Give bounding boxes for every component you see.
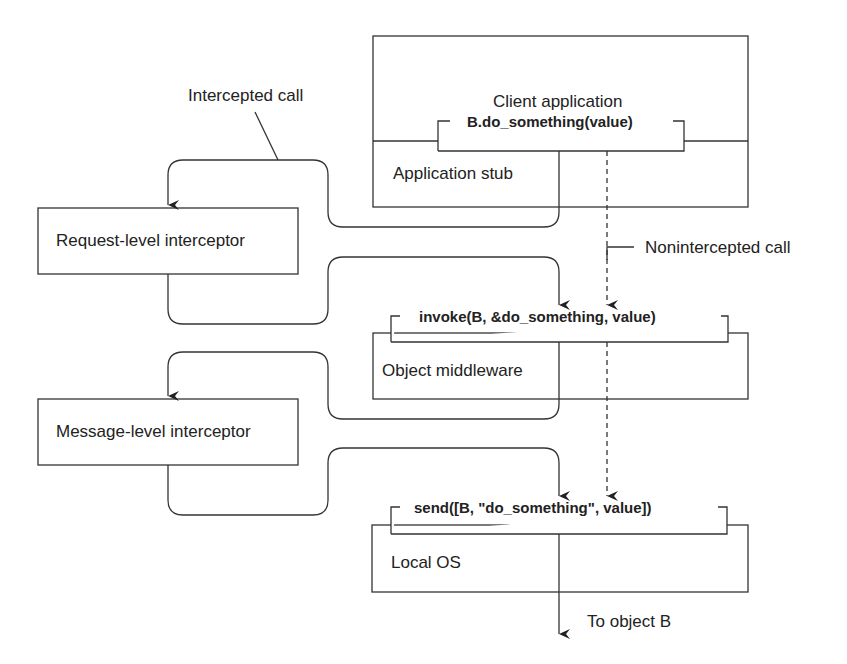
client-call-signature: B.do_something(value) [467,113,633,130]
middleware-call-signature: invoke(B, &do_something, value) [419,308,656,325]
request-interceptor-label: Request-level interceptor [56,231,245,251]
application-stub-label: Application stub [393,164,513,184]
intercepted-call-label: Intercepted call [188,86,303,106]
intercepted-flow-line-1 [168,151,559,227]
object-middleware-label: Object middleware [382,361,523,381]
os-call-signature: send([B, "do_something", value]) [414,499,652,516]
client-application-title: Client application [493,92,622,112]
message-interceptor-label: Message-level interceptor [56,422,251,442]
to-object-b-label: To object B [587,612,671,632]
local-os-label: Local OS [391,553,461,573]
nonintercepted-call-label: Nonintercepted call [645,238,791,258]
